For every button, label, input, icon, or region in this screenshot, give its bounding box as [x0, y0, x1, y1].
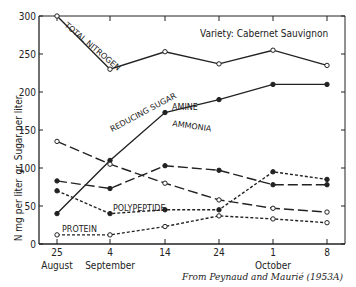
y-axis-label-nitrogen: N mg per liter: [13, 178, 24, 241]
data-point: [55, 179, 59, 183]
data-point: [325, 82, 329, 86]
y-tick-label: 250: [19, 49, 36, 60]
data-point: [217, 168, 221, 172]
data-point: [55, 189, 59, 193]
x-tick-label: 24: [213, 247, 225, 258]
x-tick-label: 1: [270, 247, 276, 258]
series-ammonia: [57, 141, 327, 212]
data-point: [163, 181, 167, 185]
data-point: [163, 224, 167, 228]
data-point: [108, 233, 112, 237]
data-point: [163, 110, 167, 114]
data-point: [217, 198, 221, 202]
source-caption: From Peynaud and Maurié (1953A): [181, 272, 343, 282]
x-month-label: October: [255, 260, 291, 271]
data-point: [108, 162, 112, 166]
data-point: [163, 164, 167, 168]
series-label: TOTAL NITROGEN: [62, 20, 122, 73]
y-axis-label-sugar: gr. Sugar per liter: [13, 95, 24, 174]
data-point: [217, 97, 221, 101]
series-amine: [57, 166, 327, 189]
x-tick-label: 25: [51, 247, 62, 258]
data-point: [108, 211, 112, 215]
y-tick-label: 50: [25, 201, 37, 212]
data-point: [271, 170, 275, 174]
x-tick-label: 4: [107, 247, 113, 258]
data-point: [217, 62, 221, 66]
data-point: [55, 139, 59, 143]
data-point: [325, 177, 329, 181]
data-point: [271, 183, 275, 187]
data-point: [271, 217, 275, 221]
x-month-label: August: [41, 260, 73, 271]
series-total-nitrogen: [57, 16, 327, 69]
series-label: AMINE: [172, 103, 198, 112]
chart-title: Variety: Cabernet Sauvignon: [200, 28, 328, 39]
data-point: [325, 183, 329, 187]
data-point: [271, 48, 275, 52]
data-point: [55, 14, 59, 18]
data-point: [55, 211, 59, 215]
series-labels: TOTAL NITROGENREDUCING SUGARAMINEAMMONIA…: [62, 20, 213, 234]
data-point: [217, 208, 221, 212]
data-point: [271, 82, 275, 86]
data-point: [325, 210, 329, 214]
x-tick-label: 8: [324, 247, 330, 258]
x-month-label: September: [85, 260, 135, 271]
line-chart: 050100150200250300 254142418AugustSeptem…: [0, 0, 356, 287]
series-label: PROTEIN: [62, 225, 97, 234]
x-tick-label: 14: [159, 247, 171, 258]
y-tick-label: 0: [30, 239, 36, 250]
data-point: [325, 63, 329, 67]
series-label: POLYPEPTIDE: [113, 204, 166, 213]
data-point: [271, 206, 275, 210]
data-point: [217, 214, 221, 218]
series-label: AMMONIA: [172, 119, 213, 133]
y-tick-label: 300: [19, 11, 36, 22]
data-point: [55, 233, 59, 237]
series-protein: [57, 216, 327, 235]
data-point: [163, 50, 167, 54]
y-axis-ticks: 050100150200250300: [19, 11, 345, 250]
data-point: [325, 221, 329, 225]
series-polypeptide: [57, 172, 327, 214]
data-point: [108, 186, 112, 190]
